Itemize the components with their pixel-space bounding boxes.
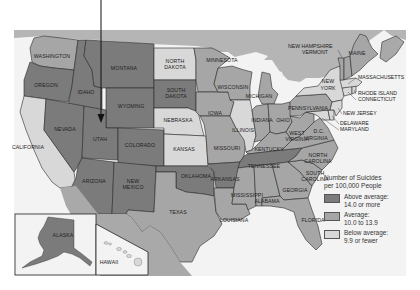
label-vermont: VERMONT <box>302 49 329 55</box>
label-south-dakota-2: DAKOTA <box>165 93 187 99</box>
label-missouri: MISSOURI <box>214 145 240 151</box>
legend-text-above: Above average: 14.0 or more <box>344 193 389 208</box>
legend-average-line2: 10.0 to 13.9 <box>344 219 378 226</box>
legend-below-line1: Below average: <box>344 229 388 236</box>
label-connecticut: CONNECTICUT <box>358 96 397 102</box>
label-kentucky: KENTUCKY <box>254 146 283 152</box>
legend-above-line2: 14.0 or more <box>344 201 380 208</box>
label-north-dakota-2: DAKOTA <box>164 64 186 70</box>
label-hawaii: HAWAII <box>100 259 119 265</box>
legend-swatch-above <box>324 194 340 203</box>
label-north-carolina-2: CAROLINA <box>304 158 332 164</box>
label-new-mexico-2: MEXICO <box>122 184 143 190</box>
label-arizona: ARIZONA <box>82 178 106 184</box>
label-wisconsin: WISCONSIN <box>218 84 249 90</box>
label-alaska: ALASKA <box>53 232 74 238</box>
label-texas: TEXAS <box>169 209 187 215</box>
label-washington: WASHINGTON <box>34 53 71 59</box>
label-montana: MONTANA <box>111 65 138 71</box>
legend-above-line1: Above average: <box>344 193 389 200</box>
legend-item-average: Average: 10.0 to 13.9 <box>324 211 414 226</box>
legend-text-below: Below average: 9.9 or fewer <box>344 229 388 244</box>
label-maine: MAINE <box>349 50 366 56</box>
label-florida: FLORIDA <box>301 217 325 223</box>
label-oregon: OREGON <box>34 82 58 88</box>
legend-average-line1: Average: <box>344 211 369 218</box>
label-oklahoma: OKLAHOMA <box>181 173 212 179</box>
legend-text-average: Average: 10.0 to 13.9 <box>344 211 378 226</box>
label-minnesota: MINNESOTA <box>206 57 238 63</box>
label-nebraska: NEBRASKA <box>163 117 192 123</box>
label-wyoming: WYOMING <box>118 103 145 109</box>
state-montana <box>84 40 154 88</box>
label-kansas: KANSAS <box>173 146 195 152</box>
label-michigan: MICHIGAN <box>246 93 273 99</box>
label-rhode-island: RHODE ISLAND <box>358 90 397 96</box>
label-massachusetts: MASSACHUSETTS <box>358 74 405 80</box>
label-colorado: COLORADO <box>125 142 156 148</box>
label-pennsylvania: PENNSYLVANIA <box>288 105 329 111</box>
label-new-york-2: YORK <box>320 85 336 91</box>
legend-below-line2: 9.9 or fewer <box>344 237 378 244</box>
label-new-york-1: NEW <box>322 78 334 84</box>
label-ohio: OHIO <box>276 117 290 123</box>
legend-swatch-average <box>324 212 340 221</box>
label-georgia: GEORGIA <box>283 187 308 193</box>
label-idaho: IDAHO <box>78 89 95 95</box>
label-arkansas: ARKANSAS <box>210 176 239 182</box>
label-louisiana: LOUISIANA <box>220 217 249 223</box>
map-legend: Number of Suicides per 100,000 People Ab… <box>324 174 414 248</box>
legend-swatch-below <box>324 230 340 239</box>
label-maryland: MARYLAND <box>340 126 369 132</box>
label-iowa: IOWA <box>208 110 222 116</box>
label-utah: UTAH <box>93 136 107 142</box>
label-nevada: NEVADA <box>54 126 76 132</box>
label-alabama: ALABAMA <box>254 198 280 204</box>
legend-title: Number of Suicides per 100,000 People <box>324 174 414 190</box>
label-indiana: INDIANA <box>251 117 273 123</box>
label-tennessee: TENNESSEE <box>248 163 281 169</box>
label-california: CALIFORNIA <box>12 144 45 150</box>
label-west-virginia-2: VIRGINIA <box>285 136 309 142</box>
legend-title-line2: per 100,000 People <box>324 182 414 190</box>
label-dc: D.C. <box>314 128 325 134</box>
label-illinois: ILLINOIS <box>232 127 255 133</box>
legend-item-above: Above average: 14.0 or more <box>324 193 414 208</box>
legend-item-below: Below average: 9.9 or fewer <box>324 229 414 244</box>
label-new-jersey: NEW JERSEY <box>343 110 377 116</box>
legend-title-line1: Number of Suicides <box>324 174 414 182</box>
